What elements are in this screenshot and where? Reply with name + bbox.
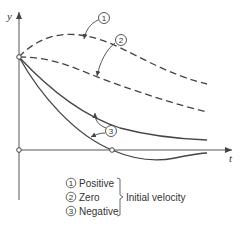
- legend-label: Negative: [79, 206, 119, 217]
- legend-item-negative: 3 Negative: [66, 206, 119, 217]
- curve-label-2-leader: [97, 43, 115, 76]
- legend: 1 Positive 2 Zero 3 Negative Initial vel…: [66, 178, 185, 217]
- curve-label-1: 1: [102, 14, 107, 23]
- legend-label: Zero: [79, 192, 100, 203]
- legend-num: 1: [69, 179, 74, 188]
- legend-group-label: Initial velocity: [126, 192, 185, 203]
- initial-point: [17, 55, 22, 60]
- legend-num: 3: [69, 207, 74, 216]
- response-diagram: y t 1 2 3 1 Positive 2 Zero 3 Negative: [0, 0, 240, 227]
- curve-label-3-leader-lower: [91, 133, 105, 137]
- curve-negative-velocity-crossing: [19, 57, 207, 160]
- curve-label-3: 3: [109, 127, 114, 136]
- legend-item-zero: 2 Zero: [66, 192, 100, 203]
- legend-num: 2: [69, 193, 74, 202]
- legend-item-positive: 1 Positive: [66, 178, 114, 189]
- t-axis-label: t: [229, 152, 233, 164]
- zero-crossing-point: [110, 148, 115, 153]
- curve-label-2: 2: [119, 36, 124, 45]
- legend-label: Positive: [79, 178, 114, 189]
- y-axis-label: y: [6, 10, 12, 22]
- curve-label-1-leader: [84, 20, 98, 39]
- origin-point: [17, 148, 22, 153]
